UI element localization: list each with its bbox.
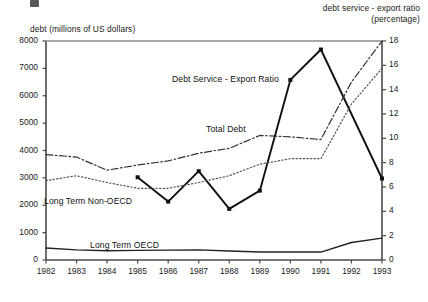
y-tick-label-left-4000: 4000 (4, 145, 38, 155)
y-tick-label-right-10: 10 (389, 132, 411, 142)
x-tick-label-1991: 1991 (304, 266, 338, 276)
y-tick-label-left-1000: 1000 (4, 227, 38, 237)
y-tick-label-right-12: 12 (389, 108, 411, 118)
x-tick-label-1985: 1985 (121, 266, 155, 276)
series-annotation-0: Debt Service - Export Ratio (172, 74, 279, 84)
y-tick-label-right-0: 0 (389, 254, 411, 264)
y-tick-label-left-7000: 7000 (4, 62, 38, 72)
x-tick-label-1983: 1983 (60, 266, 94, 276)
x-tick-label-1986: 1986 (151, 266, 185, 276)
y-tick-label-left-0: 0 (4, 254, 38, 264)
y-tick-label-left-6000: 6000 (4, 90, 38, 100)
series-annotation-2: Long Term Non-OECD (44, 196, 132, 206)
chart-plot-area (0, 0, 428, 302)
x-tick-label-1982: 1982 (29, 266, 63, 276)
y-tick-label-right-14: 14 (389, 84, 411, 94)
x-tick-label-1988: 1988 (212, 266, 246, 276)
figure-container: debt (millions of US dollars) debt servi… (0, 0, 428, 302)
y-tick-label-right-6: 6 (389, 181, 411, 191)
y-tick-label-right-8: 8 (389, 157, 411, 167)
series-marker-0-3 (227, 207, 231, 211)
y-tick-label-right-18: 18 (389, 35, 411, 45)
y-tick-label-left-5000: 5000 (4, 117, 38, 127)
x-tick-label-1984: 1984 (90, 266, 124, 276)
series-marker-0-0 (136, 175, 140, 179)
y-tick-label-left-2000: 2000 (4, 199, 38, 209)
series-marker-0-4 (258, 189, 262, 193)
series-annotation-1: Total Debt (206, 124, 246, 134)
series-marker-0-6 (319, 48, 323, 52)
x-tick-label-1987: 1987 (182, 266, 216, 276)
x-tick-label-1990: 1990 (273, 266, 307, 276)
y-tick-label-right-16: 16 (389, 59, 411, 69)
series-marker-0-5 (288, 78, 292, 82)
y-tick-label-left-8000: 8000 (4, 35, 38, 45)
series-marker-0-7 (380, 176, 384, 180)
series-group (46, 41, 384, 252)
series-line-1 (46, 41, 382, 170)
series-annotation-3: Long Term OECD (90, 240, 159, 250)
y-tick-label-right-2: 2 (389, 230, 411, 240)
x-tick-label-1993: 1993 (365, 266, 399, 276)
y-tick-label-right-4: 4 (389, 205, 411, 215)
y-tick-label-left-3000: 3000 (4, 172, 38, 182)
x-tick-label-1992: 1992 (334, 266, 368, 276)
series-marker-0-1 (166, 200, 170, 204)
series-marker-0-2 (197, 169, 201, 173)
x-tick-label-1989: 1989 (243, 266, 277, 276)
